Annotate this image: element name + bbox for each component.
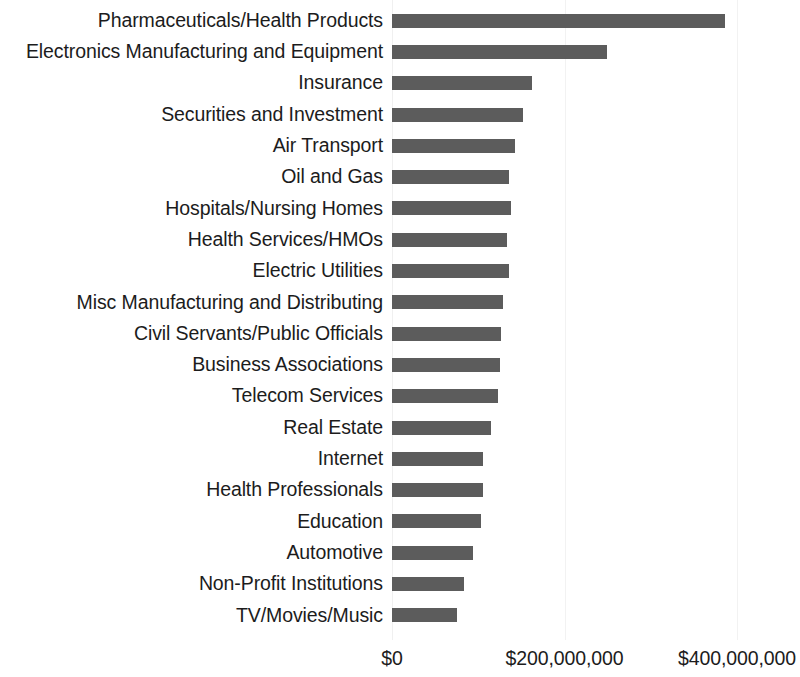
bar xyxy=(392,45,607,59)
category-label: Health Professionals xyxy=(206,480,383,500)
bar xyxy=(392,139,515,153)
category-label: Pharmaceuticals/Health Products xyxy=(98,11,383,31)
category-label: Civil Servants/Public Officials xyxy=(134,324,383,344)
category-label: Electric Utilities xyxy=(253,261,383,281)
x-axis: $0$200,000,000$400,000,000 xyxy=(0,648,800,677)
category-label: Misc Manufacturing and Distributing xyxy=(77,293,383,313)
bar-row: Pharmaceuticals/Health Products xyxy=(392,5,800,36)
bar-row: Business Associations xyxy=(392,349,800,380)
bar-row: Real Estate xyxy=(392,412,800,443)
bar xyxy=(392,14,725,28)
category-label: Telecom Services xyxy=(232,386,383,406)
bar-row: Health Professionals xyxy=(392,475,800,506)
bar xyxy=(392,514,481,528)
bar-row: TV/Movies/Music xyxy=(392,600,800,631)
category-label: Oil and Gas xyxy=(281,167,383,187)
plot-area: Pharmaceuticals/Health ProductsElectroni… xyxy=(392,0,800,640)
bar xyxy=(392,452,483,466)
bar xyxy=(392,76,532,90)
x-tick-label: $400,000,000 xyxy=(678,648,796,669)
bar-row: Air Transport xyxy=(392,130,800,161)
category-label: Securities and Investment xyxy=(161,105,383,125)
category-label: Business Associations xyxy=(192,355,383,375)
bar-rows: Pharmaceuticals/Health ProductsElectroni… xyxy=(392,0,800,640)
bar xyxy=(392,577,464,591)
bar xyxy=(392,608,457,622)
category-label: TV/Movies/Music xyxy=(236,606,383,626)
category-label: Internet xyxy=(318,449,383,469)
x-tick-label: $0 xyxy=(381,648,403,669)
category-label: Hospitals/Nursing Homes xyxy=(165,199,383,219)
bar-row: Securities and Investment xyxy=(392,99,800,130)
category-label: Health Services/HMOs xyxy=(188,230,383,250)
x-tick-label: $200,000,000 xyxy=(505,648,623,669)
category-label: Real Estate xyxy=(283,418,383,438)
bar-row: Telecom Services xyxy=(392,381,800,412)
bar-row: Electronics Manufacturing and Equipment xyxy=(392,36,800,67)
bar xyxy=(392,327,501,341)
bar xyxy=(392,358,500,372)
bar-row: Automotive xyxy=(392,537,800,568)
bar xyxy=(392,108,523,122)
category-label: Air Transport xyxy=(273,136,383,156)
bar-row: Misc Manufacturing and Distributing xyxy=(392,287,800,318)
bar-row: Insurance xyxy=(392,68,800,99)
bar-row: Electric Utilities xyxy=(392,255,800,286)
bar-row: Internet xyxy=(392,443,800,474)
category-label: Education xyxy=(297,512,383,532)
bar xyxy=(392,201,511,215)
bar-row: Education xyxy=(392,506,800,537)
bar-row: Hospitals/Nursing Homes xyxy=(392,193,800,224)
bar xyxy=(392,264,509,278)
bar xyxy=(392,170,509,184)
bar xyxy=(392,421,491,435)
bar xyxy=(392,546,473,560)
category-label: Automotive xyxy=(286,543,383,563)
bar xyxy=(392,233,507,247)
bar xyxy=(392,295,503,309)
category-label: Non-Profit Institutions xyxy=(199,574,383,594)
bar-chart: Pharmaceuticals/Health ProductsElectroni… xyxy=(0,0,800,677)
bar-row: Oil and Gas xyxy=(392,162,800,193)
bar xyxy=(392,483,483,497)
bar-row: Non-Profit Institutions xyxy=(392,568,800,599)
category-label: Electronics Manufacturing and Equipment xyxy=(26,42,383,62)
bar-row: Civil Servants/Public Officials xyxy=(392,318,800,349)
bar xyxy=(392,389,498,403)
category-label: Insurance xyxy=(298,73,383,93)
bar-row: Health Services/HMOs xyxy=(392,224,800,255)
